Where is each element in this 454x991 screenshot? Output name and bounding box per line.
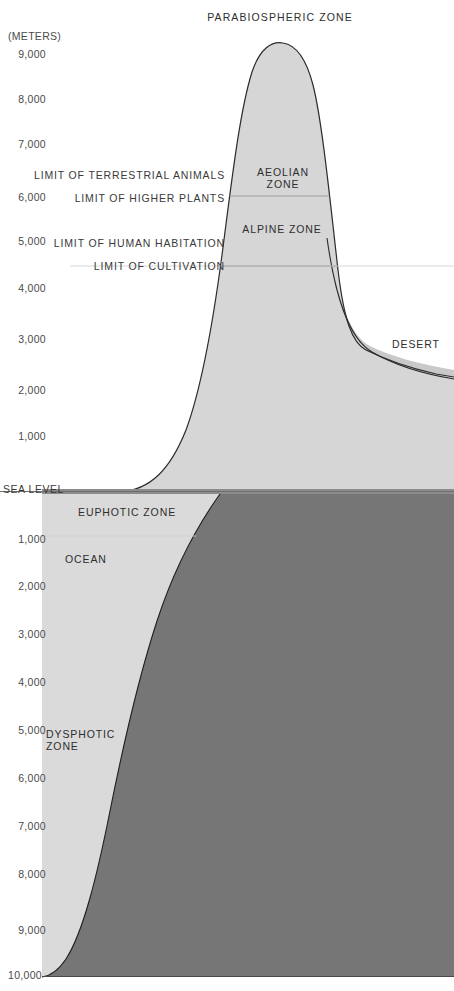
limit-human-habitation-label: LIMIT OF HUMAN HABITATION [10,238,225,250]
axis-tick-above-1000: 1,000 [0,431,46,443]
axis-tick-below-1000: 1,000 [0,534,46,546]
axis-tick-above-4000: 4,000 [0,283,46,295]
sea-level-label: SEA LEVEL [3,484,64,496]
altitude-zones-diagram: PARABIOSPHERIC ZONE (METERS) 9,000 8,000… [0,0,454,991]
axis-tick-below-9000: 9,000 [0,925,46,937]
sea-level-bar [0,489,454,494]
chart-title: PARABIOSPHERIC ZONE [150,12,410,24]
axis-unit-label: (METERS) [8,31,61,43]
desert-label: DESERT [392,339,440,351]
axis-tick-above-3000: 3,000 [0,334,46,346]
euphotic-zone-label: EUPHOTIC ZONE [78,507,176,519]
alpine-zone-label: ALPINE ZONE [222,224,342,236]
diagram-graphic-layer [0,0,454,991]
aeolian-zone-label-line1: AEOLIAN [235,167,331,179]
limit-higher-plants-label: LIMIT OF HIGHER PLANTS [10,193,225,205]
axis-tick-below-2000: 2,000 [0,581,46,593]
ocean-label: OCEAN [65,554,107,566]
dysphotic-zone-label-line2: ZONE [46,741,79,753]
axis-tick-below-10000: 10,000 [0,970,42,982]
axis-tick-above-8000: 8,000 [0,94,46,106]
axis-tick-below-4000: 4,000 [0,677,46,689]
aeolian-zone-label-line2: ZONE [235,179,331,191]
axis-tick-below-8000: 8,000 [0,869,46,881]
axis-tick-above-7000: 7,000 [0,139,46,151]
axis-tick-below-3000: 3,000 [0,629,46,641]
axis-tick-above-9000: 9,000 [0,49,46,61]
dysphotic-zone-label-line1: DYSPHOTIC [46,729,115,741]
axis-tick-below-5000: 5,000 [0,725,46,737]
axis-tick-below-6000: 6,000 [0,773,46,785]
limit-terrestrial-animals-label: LIMIT OF TERRESTRIAL ANIMALS [10,170,225,182]
axis-tick-below-7000: 7,000 [0,821,46,833]
axis-tick-above-2000: 2,000 [0,385,46,397]
limit-cultivation-label: LIMIT OF CULTIVATION [10,261,225,273]
